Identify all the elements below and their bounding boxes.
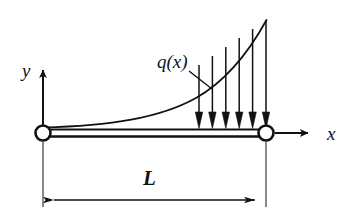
load-arrow — [209, 56, 216, 129]
beam-load-diagram: y x q(x) L — [0, 0, 362, 222]
beam-member — [43, 130, 266, 137]
load-arrow — [236, 38, 243, 129]
diagram-canvas — [0, 0, 362, 222]
right-support — [259, 126, 274, 141]
x-axis-label: x — [327, 124, 335, 143]
load-arrow — [195, 65, 202, 129]
y-axis-label: y — [22, 61, 30, 80]
span-length-label: L — [143, 168, 156, 189]
left-support — [36, 126, 51, 141]
load-arrow-group — [195, 20, 269, 129]
load-function-label: q(x) — [157, 52, 188, 71]
load-arrow — [249, 29, 256, 129]
load-arrow — [262, 20, 269, 129]
load-profile-curve — [43, 20, 267, 128]
qx-leader-line — [189, 71, 212, 89]
load-arrow — [222, 47, 229, 129]
